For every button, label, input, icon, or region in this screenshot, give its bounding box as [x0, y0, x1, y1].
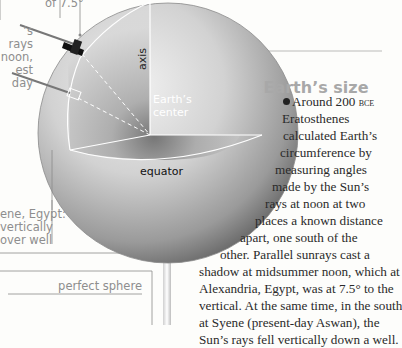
syene-line-3: over well [0, 234, 48, 247]
article-line-3: circumference by [280, 144, 372, 161]
article-line-1: Eratosthenes [282, 110, 349, 127]
article-lead: Around 200 bce [283, 93, 374, 111]
axis-label: axis [136, 48, 149, 70]
article-line-9: other. Parallel sunrays cast a [220, 246, 370, 263]
sun-rays-line-3: est day [0, 64, 33, 90]
article-line-5: made by the Sun’s [272, 178, 369, 195]
article-line-11: Alexandria, Egypt, was at 7.5° to the [199, 280, 394, 297]
sun-rays-caption: ’s rays noon, est day [0, 25, 33, 90]
article-line-4: measuring angles [275, 161, 367, 178]
bullet-icon [283, 98, 290, 105]
sun-rays-line-1: ’s rays [0, 25, 33, 51]
article-line-13: at Syene (present-day Aswan), the [199, 314, 380, 331]
article-line-6: rays at noon at two [265, 195, 365, 212]
article-line-2: calculated Earth’s [283, 127, 377, 144]
article-line-7: places a known distance [255, 212, 383, 229]
perfect-sphere-caption: perfect sphere [0, 280, 142, 293]
earths-center-label: Earth’s center [153, 93, 192, 119]
article-line-10: shadow at midsummer noon, which at [199, 263, 400, 280]
angle-caption: of 7.5° [45, 0, 84, 10]
syene-caption: ene, Egypt: vertically over well [0, 208, 48, 247]
article-line-12: vertical. At the same time, in the south [199, 297, 402, 314]
article-line-14: Sun’s rays fell vertically down a well. [199, 331, 399, 348]
equator-label: equator [140, 165, 183, 178]
article-line-8: apart, one south of the [240, 229, 358, 246]
